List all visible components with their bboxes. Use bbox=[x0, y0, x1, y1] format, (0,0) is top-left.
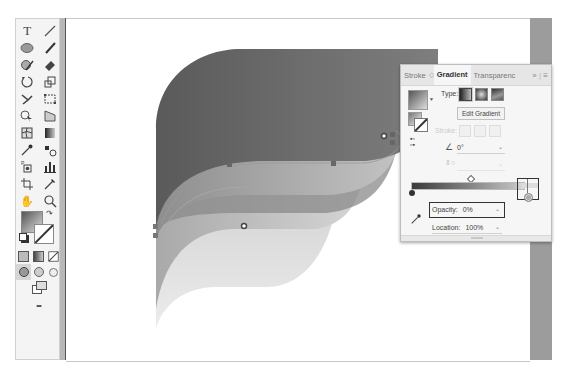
anchor-point bbox=[390, 140, 395, 145]
chevron-down-icon: ⌄ bbox=[495, 204, 500, 215]
line-segment-tool[interactable] bbox=[42, 23, 58, 39]
blend-tool[interactable] bbox=[42, 142, 58, 158]
anchor-point bbox=[227, 162, 232, 167]
gradient-panel: Stroke ◇ Gradient Transparenc » | ≡ ▼ ▪▫… bbox=[400, 64, 552, 242]
panel-tabs: Stroke ◇ Gradient Transparenc » | ≡ bbox=[401, 65, 551, 86]
shape-builder-icon bbox=[20, 109, 34, 123]
gradient-icon bbox=[43, 126, 57, 140]
draw-normal-icon bbox=[19, 267, 29, 277]
paintbrush-tool[interactable] bbox=[42, 40, 58, 56]
slice-tool[interactable] bbox=[42, 176, 58, 192]
eraser-icon bbox=[43, 58, 57, 72]
stroke-across-button[interactable] bbox=[489, 125, 501, 137]
chevron-down-icon: ⌄ bbox=[498, 142, 503, 153]
linear-gradient-button[interactable] bbox=[459, 88, 472, 101]
tab-transparency[interactable]: Transparenc bbox=[471, 71, 519, 80]
freeform-gradient-button[interactable] bbox=[491, 88, 504, 101]
gradient-annotator-point bbox=[242, 224, 247, 229]
eyedropper-icon[interactable] bbox=[410, 213, 422, 225]
draw-behind-button[interactable] bbox=[31, 264, 46, 280]
eyedropper-tool[interactable] bbox=[19, 142, 35, 158]
mesh-tool[interactable] bbox=[19, 125, 35, 141]
default-fill-stroke-icon[interactable] bbox=[19, 233, 27, 241]
gradient-swatch[interactable] bbox=[408, 90, 428, 110]
line-icon bbox=[43, 24, 57, 38]
opacity-dropdown[interactable]: Opacity: 0% ⌄ bbox=[432, 204, 502, 215]
scale-tool[interactable] bbox=[42, 74, 58, 90]
edit-toolbar-button[interactable]: ••• bbox=[16, 302, 61, 309]
gradient-mode-button[interactable] bbox=[31, 248, 46, 264]
gradient-stop-end[interactable] bbox=[524, 193, 533, 202]
tab-gradient[interactable]: Gradient bbox=[434, 65, 471, 85]
zoom-icon bbox=[43, 194, 57, 208]
warp-tool[interactable] bbox=[19, 91, 35, 107]
rotate-icon bbox=[20, 75, 34, 89]
swatch-dropdown-icon[interactable]: ▼ bbox=[429, 96, 434, 102]
collapse-panel-icon[interactable]: » bbox=[532, 71, 536, 80]
panel-menu-icon[interactable]: ≡ bbox=[543, 71, 548, 80]
ellipse-icon bbox=[20, 41, 34, 55]
hand-tool[interactable]: ✋ bbox=[19, 193, 35, 209]
artboard-tool[interactable] bbox=[19, 176, 35, 192]
draw-inside-icon bbox=[49, 268, 58, 277]
draw-normal-button[interactable] bbox=[16, 264, 31, 280]
screen-mode-button[interactable] bbox=[32, 281, 46, 293]
draw-behind-icon bbox=[34, 267, 44, 277]
stroke-swatch[interactable] bbox=[34, 224, 54, 244]
none-slash-icon bbox=[34, 224, 53, 243]
chevron-down-icon: ⌄ bbox=[498, 159, 503, 170]
none-icon bbox=[48, 251, 59, 262]
column-graph-tool[interactable] bbox=[42, 159, 58, 175]
gradient-stop-start[interactable] bbox=[409, 190, 415, 196]
shape-builder-tool[interactable] bbox=[19, 108, 35, 124]
ellipse-tool[interactable] bbox=[19, 40, 35, 56]
symbol-sprayer-icon: P bbox=[20, 160, 34, 174]
column-graph-icon bbox=[43, 160, 57, 174]
edit-gradient-button[interactable]: Edit Gradient bbox=[457, 107, 505, 120]
warp-icon bbox=[20, 92, 34, 106]
tab-stroke[interactable]: Stroke bbox=[401, 71, 429, 80]
shaper-tool[interactable] bbox=[19, 57, 35, 73]
mesh-icon bbox=[20, 126, 34, 140]
angle-dropdown[interactable]: 0° ⌄ bbox=[457, 142, 505, 154]
angle-icon: ∠ bbox=[445, 142, 453, 152]
type-icon: T bbox=[23, 23, 31, 39]
location-label: Location: bbox=[432, 224, 460, 231]
free-transform-tool[interactable] bbox=[42, 91, 58, 107]
stroke-within-button[interactable] bbox=[459, 125, 471, 137]
location-value: 100% bbox=[465, 224, 483, 231]
artboard-icon bbox=[20, 177, 34, 191]
swap-fill-stroke-icon[interactable]: ↷ bbox=[46, 209, 53, 218]
zoom-tool[interactable] bbox=[42, 193, 58, 209]
type-tool[interactable]: T bbox=[19, 23, 35, 39]
panel-resize-handle[interactable] bbox=[401, 235, 551, 241]
gradient-tool[interactable] bbox=[42, 125, 58, 141]
stop-line bbox=[527, 179, 528, 193]
gradient-mode-icon bbox=[33, 251, 44, 262]
opacity-value: 0% bbox=[463, 206, 473, 213]
color-icon bbox=[18, 251, 29, 262]
radial-gradient-button[interactable] bbox=[475, 88, 488, 101]
color-mode-button[interactable] bbox=[16, 248, 31, 264]
reverse-gradient-icon[interactable]: ▪▫▫▪ bbox=[410, 136, 415, 148]
anchor-point bbox=[153, 224, 158, 229]
stroke-indicator[interactable] bbox=[414, 118, 428, 132]
shaper-icon bbox=[20, 58, 34, 72]
stroke-label: Stroke: bbox=[435, 127, 457, 134]
perspective-grid-tool[interactable] bbox=[42, 108, 58, 124]
type-label: Type: bbox=[441, 90, 458, 97]
eraser-tool[interactable] bbox=[42, 57, 58, 73]
rotate-tool[interactable] bbox=[19, 74, 35, 90]
location-dropdown[interactable]: Location: 100% ⌄ bbox=[432, 222, 502, 234]
stroke-along-button[interactable] bbox=[474, 125, 486, 137]
none-mode-button[interactable] bbox=[46, 248, 61, 264]
anchor-point bbox=[390, 132, 395, 137]
gradient-slider[interactable] bbox=[411, 182, 525, 190]
symbol-sprayer-tool[interactable]: P bbox=[19, 159, 35, 175]
panel-controls: » | ≡ bbox=[532, 71, 551, 80]
hand-icon: ✋ bbox=[20, 195, 34, 208]
gradient-annotator-point bbox=[382, 134, 387, 139]
draw-inside-button[interactable] bbox=[46, 264, 61, 280]
aspect-ratio-dropdown[interactable]: ⌄ bbox=[457, 159, 505, 171]
blend-icon bbox=[43, 143, 57, 157]
